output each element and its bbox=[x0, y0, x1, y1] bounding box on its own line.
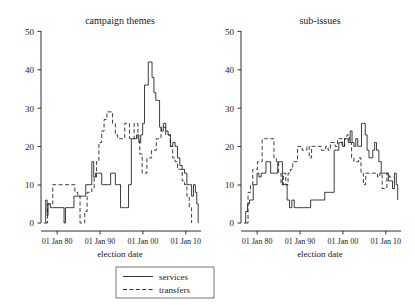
x-tick-label-2010-right: 01 Jan 10 bbox=[370, 237, 401, 246]
legend-label-services: services bbox=[159, 272, 188, 282]
x-axis-label-left: election date bbox=[97, 249, 143, 259]
y-tick-label-0-left: 0 bbox=[30, 218, 35, 228]
y-tick-label-40-right: 40 bbox=[225, 65, 235, 75]
x-tick-label-1980-right: 01 Jan 80 bbox=[242, 237, 273, 246]
y-tick-label-30-right: 30 bbox=[225, 104, 235, 114]
y-tick-label-20-right: 20 bbox=[225, 142, 235, 152]
x-tick-label-2010-left: 01 Jan 10 bbox=[170, 237, 201, 246]
figure-background bbox=[0, 0, 415, 305]
x-tick-label-2000-right: 01 Jan 00 bbox=[328, 237, 359, 246]
panel-title-right: sub-issues bbox=[299, 15, 340, 26]
x-axis-label-right: election date bbox=[297, 249, 343, 259]
y-tick-label-50-left: 50 bbox=[25, 27, 35, 37]
y-tick-label-40-left: 40 bbox=[25, 65, 35, 75]
figure-root: campaign themes 50 40 30 20 10 0 bbox=[0, 0, 415, 305]
y-tick-label-10-right: 10 bbox=[225, 180, 235, 190]
y-tick-label-20-left: 20 bbox=[25, 142, 35, 152]
y-tick-label-0-right: 0 bbox=[230, 218, 235, 228]
x-tick-label-1990-left: 01 Jan 90 bbox=[85, 237, 116, 246]
x-tick-label-1990-right: 01 Jan 90 bbox=[285, 237, 316, 246]
legend-label-transfers: transfers bbox=[159, 285, 190, 295]
y-tick-label-10-left: 10 bbox=[25, 180, 35, 190]
x-tick-label-1980-left: 01 Jan 80 bbox=[42, 237, 73, 246]
x-tick-label-2000-left: 01 Jan 00 bbox=[128, 237, 159, 246]
y-tick-label-30-left: 30 bbox=[25, 104, 35, 114]
y-tick-label-50-right: 50 bbox=[225, 27, 235, 37]
panel-title-left: campaign themes bbox=[85, 15, 155, 26]
